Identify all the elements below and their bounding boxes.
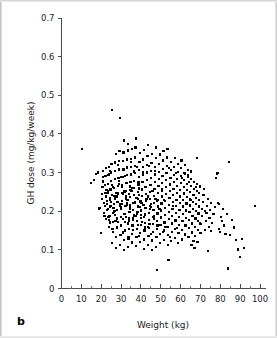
x-axis-tick-labels: 0102030405060708090100 bbox=[59, 294, 268, 304]
data-point bbox=[235, 239, 237, 241]
data-point bbox=[115, 236, 117, 238]
data-point bbox=[135, 215, 137, 217]
data-point bbox=[182, 205, 184, 207]
data-point bbox=[161, 182, 163, 184]
x-tick-label: 60 bbox=[175, 294, 186, 304]
data-point bbox=[156, 220, 158, 222]
data-point bbox=[226, 213, 228, 215]
data-point bbox=[178, 216, 180, 218]
data-point bbox=[137, 205, 139, 207]
data-point bbox=[221, 220, 223, 222]
data-point bbox=[109, 170, 111, 172]
y-tick-label: 0.5 bbox=[41, 90, 55, 100]
data-point bbox=[141, 221, 143, 223]
data-point bbox=[104, 184, 106, 186]
data-point bbox=[199, 222, 201, 224]
data-point bbox=[210, 202, 212, 204]
data-point bbox=[147, 244, 149, 246]
data-point bbox=[176, 192, 178, 194]
x-tick-label: 50 bbox=[155, 294, 166, 304]
data-point bbox=[107, 208, 109, 210]
data-point bbox=[116, 201, 118, 203]
data-point bbox=[165, 186, 167, 188]
data-point bbox=[192, 208, 194, 210]
data-point bbox=[93, 179, 95, 181]
data-point bbox=[185, 202, 187, 204]
data-point bbox=[168, 167, 170, 169]
data-point bbox=[143, 229, 145, 231]
data-point bbox=[114, 220, 116, 222]
data-point bbox=[223, 224, 225, 226]
data-point bbox=[198, 199, 200, 201]
data-point bbox=[174, 237, 176, 239]
data-point bbox=[136, 211, 138, 213]
data-point bbox=[197, 212, 199, 214]
data-point bbox=[179, 195, 181, 197]
data-point bbox=[140, 214, 142, 216]
data-point bbox=[115, 195, 117, 197]
data-point bbox=[104, 175, 106, 177]
data-point bbox=[111, 194, 113, 196]
data-point bbox=[196, 190, 198, 192]
data-point bbox=[138, 161, 140, 163]
data-point bbox=[157, 205, 159, 207]
data-point bbox=[157, 185, 159, 187]
data-point bbox=[110, 163, 112, 165]
data-point bbox=[158, 163, 160, 165]
data-point bbox=[177, 171, 179, 173]
data-point bbox=[144, 222, 146, 224]
data-point bbox=[208, 226, 210, 228]
data-point bbox=[171, 222, 173, 224]
data-point bbox=[172, 201, 174, 203]
data-point bbox=[131, 224, 133, 226]
data-point bbox=[144, 213, 146, 215]
data-point bbox=[126, 199, 128, 201]
data-point bbox=[124, 175, 126, 177]
data-point bbox=[130, 166, 132, 168]
x-tick-label: 30 bbox=[116, 294, 127, 304]
data-point bbox=[127, 222, 129, 224]
data-point bbox=[111, 184, 113, 186]
data-point bbox=[149, 208, 151, 210]
data-point bbox=[110, 205, 112, 207]
data-point bbox=[185, 217, 187, 219]
data-point bbox=[173, 181, 175, 183]
data-point bbox=[149, 184, 151, 186]
data-point bbox=[144, 207, 146, 209]
data-point bbox=[123, 168, 125, 170]
data-point bbox=[169, 177, 171, 179]
data-point bbox=[153, 195, 155, 197]
data-point bbox=[186, 196, 188, 198]
data-point bbox=[112, 231, 114, 233]
scatter-data-points bbox=[81, 109, 256, 272]
data-point bbox=[163, 199, 165, 201]
data-point bbox=[119, 234, 121, 236]
y-tick-label: 0.4 bbox=[41, 129, 55, 139]
data-point bbox=[233, 226, 235, 228]
data-point bbox=[114, 161, 116, 163]
data-point bbox=[202, 201, 204, 203]
data-point bbox=[120, 224, 122, 226]
data-point bbox=[112, 207, 114, 209]
data-point bbox=[128, 193, 130, 195]
data-point bbox=[164, 214, 166, 216]
data-point bbox=[122, 231, 124, 233]
data-point bbox=[188, 227, 190, 229]
data-point bbox=[148, 219, 150, 221]
data-point bbox=[231, 219, 233, 221]
y-axis-title: GH dose (mg/kg/week) bbox=[26, 101, 36, 204]
data-point bbox=[167, 244, 169, 246]
data-point bbox=[184, 173, 186, 175]
data-point bbox=[173, 166, 175, 168]
data-point bbox=[184, 164, 186, 166]
data-point bbox=[155, 236, 157, 238]
data-point bbox=[224, 233, 226, 235]
data-point bbox=[139, 232, 141, 234]
data-point bbox=[152, 209, 154, 211]
data-point bbox=[137, 224, 139, 226]
data-point bbox=[129, 196, 131, 198]
data-point bbox=[128, 211, 130, 213]
data-point bbox=[136, 166, 138, 168]
data-point bbox=[144, 186, 146, 188]
data-point bbox=[140, 217, 142, 219]
